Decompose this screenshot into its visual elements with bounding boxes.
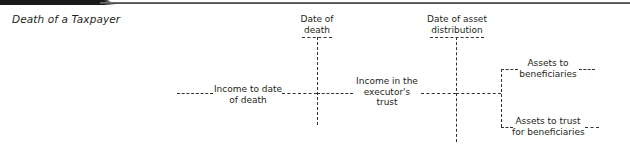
outcome-assets-to-beneficiaries-label: Assets to beneficiaries [518,58,578,79]
outcome-bracket [501,69,502,127]
label-line: Assets to trust [512,116,584,127]
header-rule [100,2,630,4]
label-line: Assets to [518,58,578,69]
phase-income-to-date-of-death-lead [177,93,213,94]
milestone-date-of-death-label: Date of death [297,14,337,35]
label-line: executor's [355,87,419,98]
label-line: for beneficiaries [512,127,584,138]
label-line: Date of asset [425,14,489,25]
phase-income-to-date-of-death-trail [282,93,317,94]
label-line: Income in the [355,76,419,87]
milestone-date-of-asset-distribution-cap [430,37,484,38]
phase-executor-trust-trail [421,93,456,94]
outcome-assets-to-trust-trail [585,127,599,128]
milestone-date-of-asset-distribution-line [456,37,457,142]
label-line: distribution [425,25,489,36]
label-line: death [297,25,337,36]
milestone-date-of-death-line [317,37,318,125]
outcome-assets-to-beneficiaries-trail [579,69,595,70]
outcome-assets-to-trust-label: Assets to trust for beneficiaries [512,116,584,137]
phase-executor-trust-label: Income in the executor's trust [355,76,419,108]
outcome-assets-to-beneficiaries-lead [501,69,518,70]
diagram-title: Death of a Taxpayer [12,13,120,25]
outcome-connector [456,93,501,94]
exhibit-tab [0,0,100,5]
milestone-date-of-asset-distribution-label: Date of asset distribution [425,14,489,35]
label-line: of death [213,95,283,106]
phase-income-to-date-of-death-label: Income to date of death [213,84,283,105]
label-line: trust [355,97,419,108]
phase-executor-trust-lead [317,93,353,94]
label-line: Date of [297,14,337,25]
label-line: beneficiaries [518,69,578,80]
label-line: Income to date [213,84,283,95]
